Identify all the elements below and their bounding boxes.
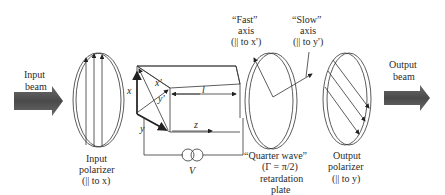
output-polarizer-disc	[323, 53, 371, 145]
retardation-plate-label-3: retardation	[260, 173, 303, 184]
electro-optic-crystal	[137, 66, 243, 161]
slow-axis-label-1: “Slow”	[292, 14, 321, 25]
retardation-plate-label-4: plate	[271, 184, 291, 195]
quarter-wave-plate	[245, 52, 312, 149]
crystal-z-label: z	[193, 119, 198, 130]
crystal-x-label: x	[126, 85, 132, 96]
output-polarizer-label-2: polarizer	[328, 161, 364, 172]
input-polarizer-label-3: (|| to x)	[82, 175, 110, 187]
crystal-y-prime-label: y'	[157, 93, 165, 104]
crystal-length-label: l	[202, 84, 205, 95]
retardation-plate-label-2: (Γ = π/2)	[262, 161, 298, 173]
input-beam-label-2: beam	[25, 81, 47, 92]
output-polarizer-label-1: Output	[333, 150, 361, 161]
input-beam-label-1: Input	[24, 69, 45, 80]
output-beam-arrow	[384, 85, 430, 111]
output-beam-label-1: Output	[389, 59, 417, 70]
electro-optic-modulator-diagram: Input beam Input polarizer (|| to x)	[0, 0, 445, 195]
input-polarizer-label-2: polarizer	[79, 164, 115, 175]
fast-axis-label-1: “Fast”	[232, 14, 258, 25]
crystal-x-prime-label: x'	[154, 77, 162, 88]
fast-axis-label-2: axis	[238, 25, 254, 36]
input-polarizer-label-1: Input	[86, 153, 107, 164]
output-polarizer-label-3: (|| to y)	[332, 173, 360, 185]
crystal-y-label: y	[139, 123, 145, 134]
input-polarizer-disc	[73, 53, 124, 147]
voltage-label: V	[189, 165, 197, 176]
fast-axis-label-3: (|| to x')	[231, 36, 261, 48]
slow-axis-label-2: axis	[300, 25, 316, 36]
slow-axis-label-3: (|| to y')	[293, 36, 323, 48]
retardation-plate-label-1: “Quarter wave”	[244, 150, 307, 161]
output-beam-label-2: beam	[393, 71, 415, 82]
